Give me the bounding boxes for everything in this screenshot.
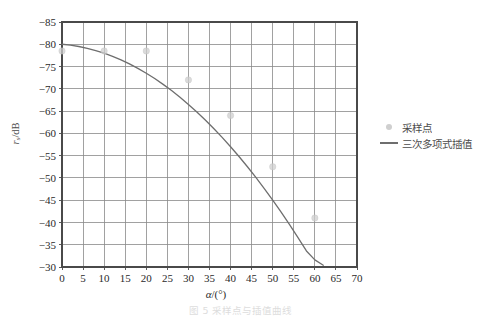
x-tick-label: 65 (330, 272, 341, 284)
y-tick-label: −70 (26, 83, 56, 95)
grid-lines (62, 22, 357, 267)
x-tick-label: 50 (267, 272, 278, 284)
y-tick-label: −35 (26, 239, 56, 251)
x-tick-label: 5 (80, 272, 86, 284)
x-tick-label: 25 (162, 272, 173, 284)
legend-label-interpolation: 三次多项式插值 (400, 136, 472, 151)
x-tick-label: 15 (120, 272, 131, 284)
y-tick-label: −85 (26, 16, 56, 28)
y-tick-label: −50 (26, 172, 56, 184)
x-tick-label: 10 (99, 272, 110, 284)
y-tick-label: −80 (26, 38, 56, 50)
x-tick-label: 30 (183, 272, 194, 284)
x-tick-label: 0 (59, 272, 65, 284)
figure-caption: 图 5 采样点与插值曲线 (0, 303, 481, 317)
x-tick-label: 20 (141, 272, 152, 284)
legend-marker-icon (378, 124, 400, 130)
y-axis-unit: /dB (10, 122, 21, 137)
x-tick-label: 60 (309, 272, 320, 284)
y-tick-label: −30 (26, 261, 56, 273)
y-axis-subscript: s (14, 138, 22, 141)
x-tick-label: 55 (288, 272, 299, 284)
y-tick-label: −40 (26, 217, 56, 229)
y-tick-label: −75 (26, 61, 56, 73)
y-tick-label: −45 (26, 194, 56, 206)
legend-item-sample-points: 采样点 (378, 119, 478, 135)
legend-label-sample-points: 采样点 (400, 120, 432, 135)
x-tick-label: 70 (352, 272, 363, 284)
x-axis-unit: /(°) (212, 288, 227, 300)
y-tick-label: −65 (26, 105, 56, 117)
y-axis-label: rs/dB (10, 118, 23, 148)
y-tick-label: −55 (26, 150, 56, 162)
tick-marks (59, 22, 357, 270)
x-tick-label: 40 (225, 272, 236, 284)
x-tick-label: 35 (204, 272, 215, 284)
y-tick-label: −60 (26, 127, 56, 139)
x-tick-label: 45 (246, 272, 257, 284)
legend-item-interpolation: 三次多项式插值 (378, 135, 478, 151)
x-axis-label: α/(°) (176, 288, 256, 300)
y-axis-symbol: r (10, 140, 21, 144)
interpolation-curve (62, 44, 323, 265)
legend-line-icon (378, 142, 400, 144)
chart-legend: 采样点 三次多项式插值 (378, 119, 478, 151)
